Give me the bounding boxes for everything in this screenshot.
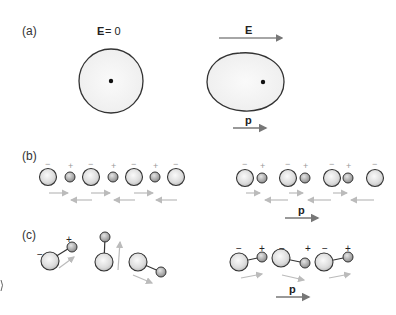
charge-plus: + xyxy=(68,162,73,171)
charge-minus: − xyxy=(37,250,43,260)
field-zero-text: = 0 xyxy=(105,25,121,37)
panel-label-a: (a) xyxy=(22,24,37,38)
charge-plus: + xyxy=(305,244,311,254)
charge-minus: − xyxy=(322,244,328,254)
neutral-atom-cloud xyxy=(79,49,143,113)
charge-plus: + xyxy=(345,244,351,254)
nucleus-dot xyxy=(109,79,113,83)
field-symbol: E xyxy=(245,24,252,36)
charge-minus: − xyxy=(242,160,247,169)
polarization-diagram xyxy=(0,0,396,315)
nucleus-dot xyxy=(261,80,265,84)
ionic-chain-unpolarized xyxy=(40,169,185,201)
dipole-symbol: p xyxy=(245,114,252,126)
charge-minus: − xyxy=(279,244,285,254)
dipole-symbol: p xyxy=(289,283,296,295)
charge-plus: + xyxy=(260,162,265,171)
charge-plus: + xyxy=(303,162,308,171)
charge-minus: − xyxy=(285,160,290,169)
charge-plus: + xyxy=(153,162,158,171)
polar-molecules-random xyxy=(41,232,166,283)
charge-minus: − xyxy=(329,160,334,169)
field-symbol: E xyxy=(97,25,104,37)
polarized-atom-cloud xyxy=(207,53,284,111)
ionic-chain-polarized xyxy=(237,170,384,201)
charge-minus: − xyxy=(131,160,136,169)
charge-plus: + xyxy=(111,162,116,171)
edge-artifact xyxy=(1,280,3,291)
dipole-symbol: p xyxy=(298,204,305,216)
charge-minus: − xyxy=(173,160,178,169)
charge-minus: − xyxy=(372,160,377,169)
charge-plus: + xyxy=(66,235,72,245)
polar-molecules-aligned xyxy=(230,249,353,280)
charge-minus: − xyxy=(88,160,93,169)
panel-label-b: (b) xyxy=(22,149,37,163)
charge-plus: + xyxy=(259,244,265,254)
charge-minus: − xyxy=(45,160,50,169)
panel-label-c: (c) xyxy=(22,228,36,242)
charge-plus: + xyxy=(346,162,351,171)
charge-minus: − xyxy=(236,244,242,254)
